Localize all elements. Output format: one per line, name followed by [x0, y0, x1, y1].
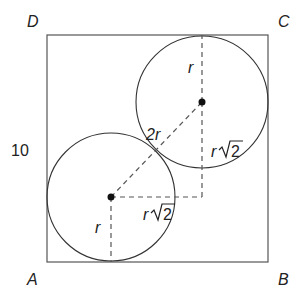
lower-center-dot [108, 194, 115, 201]
center-distance-line [111, 102, 202, 197]
center-distance-label: 2r [145, 126, 161, 143]
horizontal-leg-label: r 2 [143, 204, 175, 223]
lower-radius-label: r [95, 219, 101, 236]
vertical-leg-label: r 2 [211, 141, 243, 160]
side-length-label: 10 [11, 142, 29, 159]
svg-text:2: 2 [163, 206, 172, 223]
vertex-d-label: D [27, 13, 39, 30]
vertex-c-label: C [278, 13, 290, 30]
svg-text:2: 2 [231, 143, 240, 160]
vertex-b-label: B [278, 271, 289, 288]
svg-text:r: r [143, 206, 149, 223]
geometry-diagram: D C A B 10 r r 2r r 2 r 2 [0, 0, 299, 296]
svg-text:r: r [211, 143, 217, 160]
upper-radius-label: r [188, 59, 194, 76]
upper-center-dot [199, 99, 206, 106]
vertex-a-label: A [26, 271, 38, 288]
